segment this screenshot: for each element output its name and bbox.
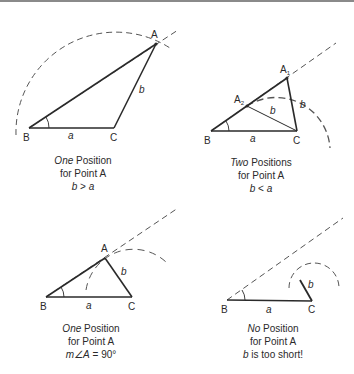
vertex-label-b: B xyxy=(23,132,30,143)
angle-b-mark xyxy=(61,287,64,297)
caption-emph: One xyxy=(62,323,81,334)
caption-line2: for Point A xyxy=(60,168,106,179)
side-label-b: b xyxy=(139,84,145,95)
panel-one-position-right-angle: A B C a b xyxy=(40,208,178,312)
side-b xyxy=(105,258,132,297)
side-label-b: b xyxy=(121,266,127,277)
angle-b-mark xyxy=(226,121,229,131)
caption-rest: Position xyxy=(81,323,119,334)
side-label-a: a xyxy=(68,130,74,141)
caption-emph: No xyxy=(247,323,260,334)
caption-panel-1: One Position for Point A b > a xyxy=(38,154,128,193)
caption-rest: Positions xyxy=(248,157,291,168)
caption-condition: b < a xyxy=(216,182,306,195)
caption-condition: b is too short! xyxy=(223,348,323,361)
angle-b-mark xyxy=(242,290,245,300)
caption-line2: for Point A xyxy=(68,336,114,347)
vertex-label-b: B xyxy=(40,301,47,312)
vertex-label-b: B xyxy=(221,304,228,315)
side-label-a: a xyxy=(86,300,92,311)
caption-panel-3: One Position for Point A m∠A = 90° xyxy=(46,322,136,361)
side-label-a: a xyxy=(250,133,256,144)
caption-emph: Two xyxy=(230,157,248,168)
side-c xyxy=(29,44,156,128)
vertex-label-c: C xyxy=(128,301,135,312)
caption-rest: Position xyxy=(260,323,298,334)
side-label-b: b xyxy=(308,279,314,290)
vertex-label-a2: A2 xyxy=(234,94,245,106)
caption-line2: for Point A xyxy=(238,170,284,181)
vertex-label-c: C xyxy=(110,132,117,143)
caption-emph: One xyxy=(54,155,73,166)
side-a xyxy=(227,300,312,301)
vertex-label-c: C xyxy=(293,135,300,146)
side-label-b-a2: b xyxy=(270,105,276,116)
caption-line2: for Point A xyxy=(250,336,296,347)
caption-condition: m∠A = 90° xyxy=(46,348,136,361)
caption-condition: b > a xyxy=(38,180,128,193)
arc-radius-b xyxy=(289,263,339,288)
vertex-label-c: C xyxy=(308,304,315,315)
panel-no-position: B C a b xyxy=(221,218,343,315)
side-label-b-a1: b xyxy=(300,99,306,110)
vertex-label-a: A xyxy=(151,29,158,40)
caption-panel-4: No Position for Point A b is too short! xyxy=(223,322,323,361)
side-c xyxy=(211,78,287,131)
vertex-label-b: B xyxy=(204,135,211,146)
side-b-to-a1 xyxy=(287,78,297,131)
vertex-label-a: A xyxy=(101,243,108,254)
angle-b-mark xyxy=(46,117,49,128)
side-label-a: a xyxy=(266,304,272,315)
ray-from-b xyxy=(227,218,343,300)
side-b xyxy=(114,44,156,128)
caption-rest: Position xyxy=(73,155,111,166)
panel-one-position-b-greater: A B C a b xyxy=(16,29,178,143)
panel-two-positions: A1 A2 B C a b b xyxy=(204,43,336,148)
side-c xyxy=(46,258,105,297)
caption-panel-2: Two Positions for Point A b < a xyxy=(216,156,306,195)
arc-radius-b xyxy=(16,32,170,135)
vertex-label-a1: A1 xyxy=(280,64,291,76)
arc-radius-b xyxy=(247,97,330,148)
